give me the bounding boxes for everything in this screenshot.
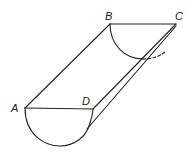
front-semicircle	[25, 108, 93, 146]
label-d: D	[82, 96, 90, 107]
back-semicircle-hidden	[143, 52, 165, 59]
edge-ad	[25, 108, 93, 109]
label-c: C	[175, 11, 183, 22]
edge-cd	[93, 24, 176, 109]
outer-tangent-edge	[87, 26, 176, 129]
label-a: A	[11, 103, 18, 114]
label-b: B	[105, 11, 112, 22]
edge-ab	[25, 24, 110, 108]
trough-diagram	[0, 0, 189, 156]
back-semicircle	[110, 24, 143, 59]
